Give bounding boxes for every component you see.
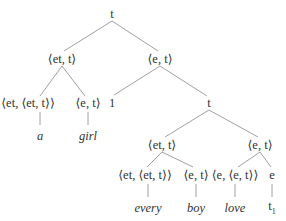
trace-subscript: 1 bbox=[272, 207, 276, 216]
leaf-boy: boy bbox=[187, 202, 205, 215]
leaf-girl: girl bbox=[79, 130, 97, 143]
node-root-t: t bbox=[110, 8, 113, 21]
leaf-a: a bbox=[37, 130, 43, 143]
node-boy-type: ⟨e, t⟩ bbox=[183, 169, 208, 182]
node-lambda-type: ⟨e, t⟩ bbox=[147, 53, 172, 66]
tree-edges bbox=[0, 0, 286, 221]
node-np-type: ⟨et, t⟩ bbox=[48, 53, 77, 66]
leaf-love: love bbox=[225, 202, 246, 215]
node-index: 1 bbox=[109, 97, 115, 110]
node-det-every-type: ⟨et, ⟨et, t⟩⟩ bbox=[118, 169, 172, 182]
node-vp-type: ⟨e, t⟩ bbox=[247, 139, 272, 152]
node-np2-type: ⟨et, t⟩ bbox=[148, 139, 177, 152]
node-e-trace-type: e bbox=[269, 169, 275, 182]
node-girl-type: ⟨e, t⟩ bbox=[75, 97, 100, 110]
node-det-a-type: ⟨et, ⟨et, t⟩⟩ bbox=[1, 97, 55, 110]
leaf-every: every bbox=[134, 202, 161, 215]
node-love-type: ⟨e, ⟨e, t⟩⟩ bbox=[212, 169, 259, 182]
leaf-trace: t1 bbox=[268, 200, 275, 216]
node-s-t: t bbox=[207, 97, 210, 110]
